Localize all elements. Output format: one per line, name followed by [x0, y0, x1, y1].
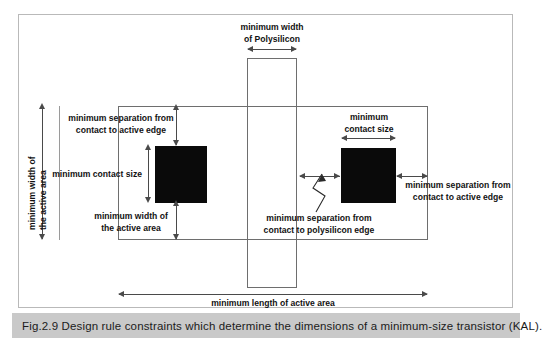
- right-sep-label-line1: minimum separation from: [396, 180, 520, 192]
- active-length-arrow-right-icon: [422, 291, 428, 297]
- active-length-arrow-left-icon: [118, 291, 124, 297]
- active-length-dim-line: [119, 294, 427, 295]
- figure-caption-text: Fig.2.9 Design rule constraints which de…: [12, 320, 542, 332]
- figure-caption-bar: Fig.2.9 Design rule constraints which de…: [12, 313, 520, 338]
- right-sep-arrow-left-icon: [396, 173, 402, 179]
- right-sep-label-line2: contact to active edge: [396, 192, 520, 204]
- poly-gap-label-line1: minimum separation from: [249, 213, 389, 225]
- active-length-label: minimum length of active area: [193, 298, 353, 310]
- right-sep-arrow-right-icon: [422, 173, 428, 179]
- poly-gap-label-line2: contact to polysilicon edge: [249, 225, 389, 237]
